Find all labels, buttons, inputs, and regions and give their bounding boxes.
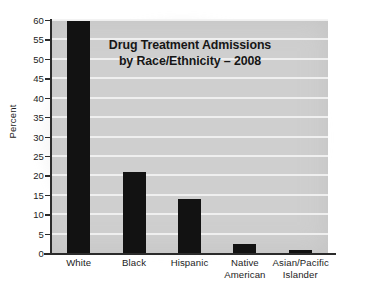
x-axis-tick-label-line: Black — [122, 257, 146, 268]
x-axis-tick-label-line: Hispanic — [171, 257, 209, 268]
bar — [289, 250, 312, 253]
y-axis-tick-label: 25 — [0, 150, 44, 161]
y-axis-tick — [45, 59, 51, 60]
y-axis-tick — [45, 117, 51, 118]
chart-figure: 051015202530354045505560 Percent Drug Tr… — [0, 0, 365, 300]
y-axis-tick — [45, 214, 51, 215]
bar-series — [51, 20, 328, 253]
x-axis-tick-label: NativeAmerican — [217, 257, 272, 280]
bar — [123, 172, 146, 253]
x-axis-tick-label-line: Islander — [273, 269, 328, 281]
bar — [233, 244, 256, 253]
y-axis-tick-label: 10 — [0, 209, 44, 220]
y-axis-tick — [45, 175, 51, 176]
x-axis-tick-label: Hispanic — [162, 257, 217, 269]
x-axis-tick-label: White — [51, 257, 106, 269]
y-axis-tick — [45, 156, 51, 157]
y-axis-tick — [45, 234, 51, 235]
bar — [67, 21, 90, 253]
y-axis-tick-label: 0 — [0, 248, 44, 259]
y-axis-tick — [45, 78, 51, 79]
y-axis-tick-label: 5 — [0, 228, 44, 239]
x-axis-tick-label-line: Asian/Pacific — [273, 257, 329, 268]
x-axis-line — [44, 253, 336, 255]
bar — [178, 199, 201, 253]
y-axis-tick — [45, 195, 51, 196]
y-axis-tick — [45, 137, 51, 138]
y-axis-tick — [45, 253, 51, 254]
y-axis-tick-label: 20 — [0, 170, 44, 181]
y-axis-tick — [45, 98, 51, 99]
y-axis-tick — [45, 39, 51, 40]
y-axis-tick-label: 50 — [0, 53, 44, 64]
y-axis-tick — [45, 20, 51, 21]
y-axis-tick-label: 15 — [0, 189, 44, 200]
x-axis-tick-label-line: Native — [231, 257, 259, 268]
y-axis-tick-label: 55 — [0, 34, 44, 45]
x-axis-tick-label-line: White — [66, 257, 91, 268]
x-axis-tick-label: Asian/PacificIslander — [273, 257, 328, 280]
x-axis-tick-label: Black — [106, 257, 161, 269]
y-axis-title: Percent — [7, 92, 18, 152]
x-axis-tick-label-line: American — [217, 269, 272, 281]
y-axis-tick-label: 45 — [0, 73, 44, 84]
x-axis-tick-labels: WhiteBlackHispanicNativeAmericanAsian/Pa… — [51, 257, 328, 297]
y-axis-tick-label: 60 — [0, 15, 44, 26]
